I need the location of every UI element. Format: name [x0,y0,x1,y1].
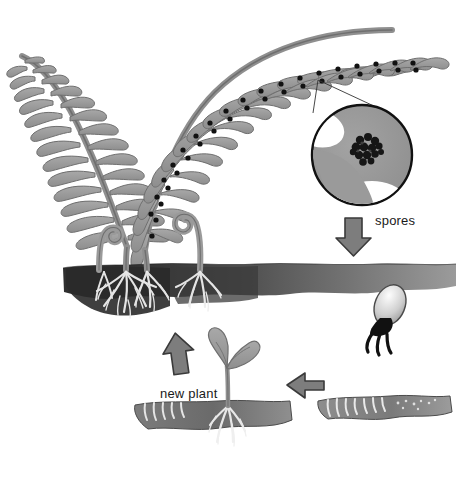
fern-life-cycle-diagram: spores new plant [0,0,463,496]
spores-label: spores [375,213,415,228]
prothallus-soil-patch [318,395,452,419]
diagram-canvas [0,0,463,496]
up-arrow [160,331,196,376]
magnifier-circle [312,105,412,206]
new-plant-label: new plant [160,386,217,401]
left-arrow [287,373,324,398]
spores-arrow [336,218,371,256]
